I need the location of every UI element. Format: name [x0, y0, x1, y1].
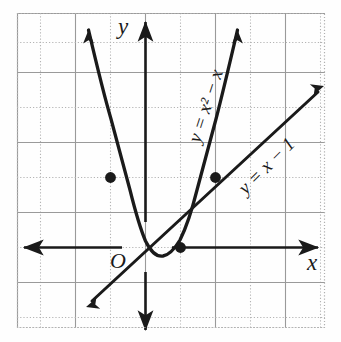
- grid-vertical-dotted: [41, 13, 321, 328]
- parabola-curve: [83, 24, 243, 256]
- grid-lines: [17, 13, 325, 328]
- coordinate-graph-figure: y x O y = x² − x y = x − 1: [0, 0, 341, 342]
- point-marker-intersection: [175, 242, 186, 253]
- figure-border: [18, 14, 325, 328]
- point-marker-left: [105, 172, 116, 183]
- point-marker-right: [210, 172, 221, 183]
- y-axis-label: y: [118, 14, 128, 40]
- x-axis-label: x: [307, 250, 317, 276]
- axes: [24, 22, 318, 330]
- graph-canvas: [0, 0, 341, 342]
- parabola-right-arrowhead: [232, 30, 243, 44]
- parabola-left-arrowhead: [83, 30, 94, 44]
- origin-label: O: [110, 248, 126, 274]
- grid-horizontal-dotted: [17, 43, 325, 328]
